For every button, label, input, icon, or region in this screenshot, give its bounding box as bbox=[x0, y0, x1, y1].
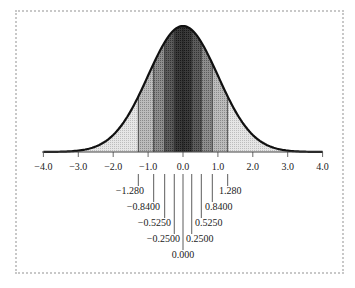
x-tick-label: 0.0 bbox=[177, 161, 190, 172]
x-tick-label: −4.0 bbox=[34, 161, 52, 172]
boundary-label-0.000: 0.000 bbox=[172, 249, 195, 260]
x-tick-label: −2.0 bbox=[104, 161, 122, 172]
boundary-label-neg-0.5250: −0.5250 bbox=[138, 217, 171, 228]
x-tick-label: 1.0 bbox=[212, 161, 225, 172]
shaded-regions bbox=[43, 0, 322, 152]
boundary-label-1.280: 1.280 bbox=[219, 185, 242, 196]
x-axis-tick-labels: −4.0−3.0−2.0−1.00.01.02.03.04.0 bbox=[34, 161, 329, 172]
boundary-label-0.2500: 0.2500 bbox=[186, 233, 214, 244]
x-tick-label: −3.0 bbox=[69, 161, 87, 172]
boundary-label-0.5250: 0.5250 bbox=[195, 217, 223, 228]
x-tick-label: 3.0 bbox=[281, 161, 294, 172]
x-tick-label: −1.0 bbox=[139, 161, 157, 172]
x-tick-label: 4.0 bbox=[316, 161, 329, 172]
boundary-label-neg-0.2500: −0.2500 bbox=[147, 233, 180, 244]
x-tick-label: 2.0 bbox=[247, 161, 260, 172]
boundary-label-neg-1.280: −1.280 bbox=[116, 185, 144, 196]
boundary-label-0.8400: 0.8400 bbox=[205, 201, 233, 212]
boundary-label-neg-0.8400: −0.8400 bbox=[127, 201, 160, 212]
normal-distribution-chart: −4.0−3.0−2.0−1.00.01.02.03.04.0 −1.280 −… bbox=[0, 0, 355, 288]
x-axis-ticks bbox=[43, 152, 322, 157]
